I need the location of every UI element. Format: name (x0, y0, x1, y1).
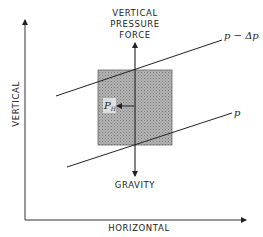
vertical-pressure-force-label-2: PRESSURE (110, 19, 160, 29)
ph-subscript: H (110, 105, 117, 112)
gravity-label: GRAVITY (115, 180, 156, 190)
isobar-upper-label: p − Δp (224, 30, 259, 41)
pressure-force-diagram: VERTICAL HORIZONTAL p − Δp p VERTICAL PR… (0, 0, 263, 237)
isobar-lower-label: p (234, 107, 241, 118)
x-axis-label: HORIZONTAL (108, 223, 169, 233)
y-axis-label: VERTICAL (11, 81, 21, 126)
vertical-pressure-force-label-3: FORCE (119, 30, 150, 40)
vertical-pressure-force-label-1: VERTICAL (112, 8, 157, 18)
